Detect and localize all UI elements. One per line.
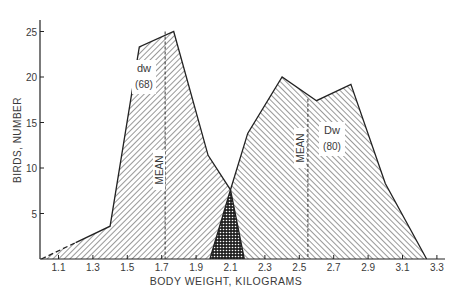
plot-area: dw (68) Dw (80) MEAN MEAN [41, 32, 426, 260]
x-tick-label: 1.1 [52, 262, 66, 273]
x-tick-label: 1.7 [155, 262, 169, 273]
x-tick-label: 3.3 [430, 262, 444, 273]
x-tick-label: 1.5 [120, 262, 134, 273]
x-tick-label: 2.7 [327, 262, 341, 273]
x-tick-label: 1.3 [86, 262, 100, 273]
y-tick-label: 5 [31, 209, 37, 220]
chart: dw (68) Dw (80) MEAN MEAN 510152025 1.11… [0, 0, 457, 301]
series-Dw-area [210, 77, 427, 259]
series-label-Dw: Dw [324, 124, 340, 136]
x-tick-label: 1.9 [189, 262, 203, 273]
x-tick-label: 2.5 [292, 262, 306, 273]
y-tick-label: 15 [26, 118, 38, 129]
y-tick-label: 25 [26, 27, 38, 38]
series-n-Dw: (80) [323, 141, 341, 152]
x-tick-label: 3.1 [396, 262, 410, 273]
x-tick-label: 2.9 [361, 262, 375, 273]
mean-label-Dw: MEAN [295, 134, 306, 163]
y-tick-label: 10 [26, 163, 38, 174]
y-axis: 510152025 [26, 20, 44, 259]
y-axis-label: BIRDS, NUMBER [12, 97, 23, 183]
x-tick-label: 2.3 [258, 262, 272, 273]
mean-label-dw: MEAN [154, 156, 165, 185]
x-axis-label: BODY WEIGHT, KILOGRAMS [150, 275, 303, 287]
series-n-dw: (68) [135, 79, 153, 90]
y-tick-label: 20 [26, 72, 38, 83]
x-tick-label: 2.1 [224, 262, 238, 273]
series-label-dw: dw [137, 62, 151, 74]
